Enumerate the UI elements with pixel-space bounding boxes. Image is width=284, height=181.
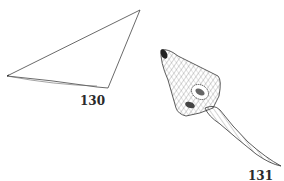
figure-130-drawing [7,10,140,88]
figure-131-drawing [159,48,281,166]
figure-label-131: 131 [248,170,273,181]
figure-label-130: 130 [80,95,105,107]
illustration-plate [0,0,284,181]
